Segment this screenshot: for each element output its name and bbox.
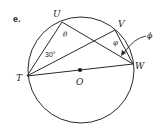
angle-phi-inner-label: φ <box>113 39 118 47</box>
point-label-w: W <box>135 61 145 71</box>
problem-label: e. <box>13 14 21 24</box>
angle-30-label: 30° <box>45 51 56 58</box>
angle-phi-outer-label: ϕ <box>147 31 153 40</box>
angle-theta-label: θ <box>63 31 68 39</box>
point-label-v: V <box>118 19 126 29</box>
center-point <box>78 68 82 72</box>
point-label-u: U <box>53 9 61 19</box>
point-label-t: T <box>16 73 23 83</box>
center-label-o: O <box>76 77 84 87</box>
circle-geometry-diagram: e. U V T W O θ 30° φ ϕ <box>0 0 160 127</box>
